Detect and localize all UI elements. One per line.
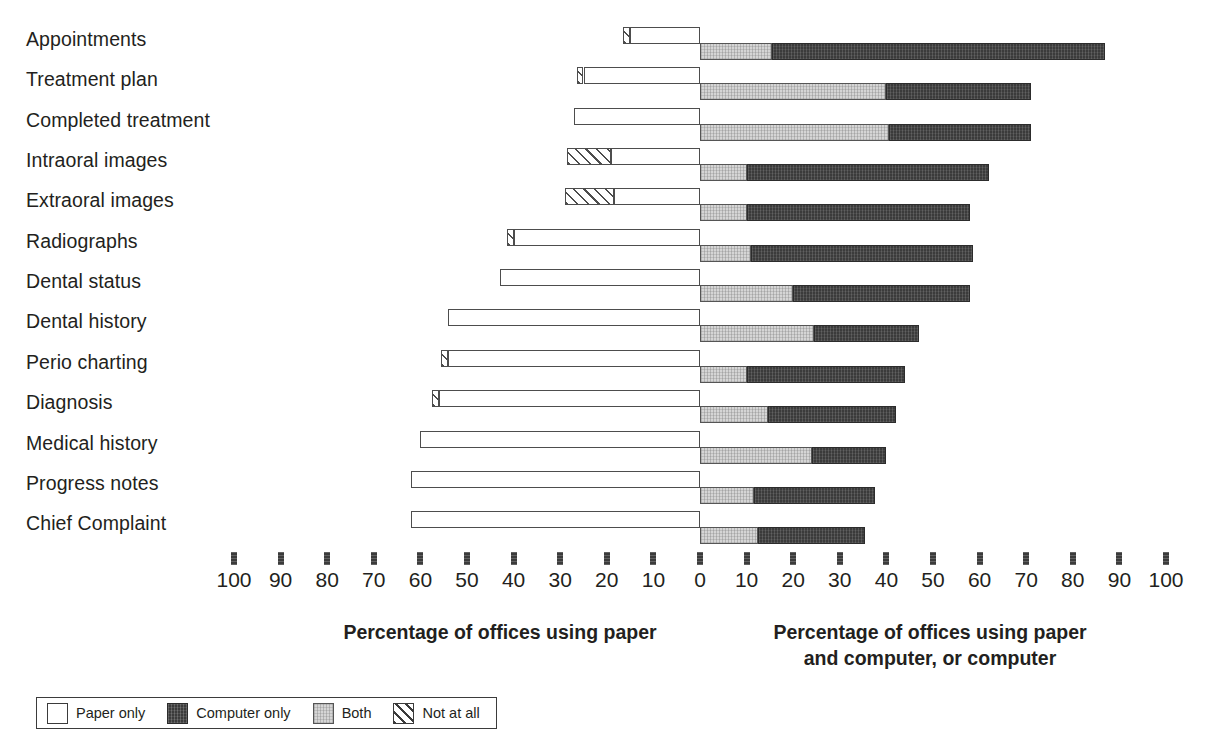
axis-tick-mark bbox=[231, 552, 237, 565]
bar-segment-paper-only bbox=[584, 67, 701, 84]
axis-tick-mark bbox=[697, 552, 703, 565]
axis-tick-label: 80 bbox=[1061, 569, 1084, 590]
bar-segment-both bbox=[700, 366, 747, 383]
bar-segment-both bbox=[700, 325, 814, 342]
legend-item-label: Not at all bbox=[422, 706, 479, 721]
bar-segment-both bbox=[700, 43, 772, 60]
bar-segment-not-at-all bbox=[623, 27, 630, 44]
legend-item: Computer only bbox=[167, 703, 290, 724]
bar-segment-both bbox=[700, 124, 889, 141]
bar-segment-both bbox=[700, 164, 747, 181]
bar-segment-computer-only bbox=[754, 487, 875, 504]
axis-tick-mark bbox=[1163, 552, 1169, 565]
legend-item: Paper only bbox=[47, 703, 145, 724]
axis-tick-label: 70 bbox=[1015, 569, 1038, 590]
bar-segment-paper-only bbox=[514, 229, 700, 246]
bar-segment-computer-only bbox=[793, 285, 970, 302]
axis-tick-mark bbox=[790, 552, 796, 565]
axis-tick-mark bbox=[744, 552, 750, 565]
bar-segment-both bbox=[700, 204, 747, 221]
bar-segment-computer-only bbox=[886, 83, 1030, 100]
axis-tick-mark bbox=[371, 552, 377, 565]
axis-tick-label: 100 bbox=[216, 569, 251, 590]
bar-segment-paper-only bbox=[448, 309, 700, 326]
bar-segment-paper-only bbox=[420, 431, 700, 448]
axis-tick-label: 50 bbox=[455, 569, 478, 590]
both-swatch-icon bbox=[313, 703, 334, 724]
bar-segment-both bbox=[700, 447, 812, 464]
axis-tick-label: 20 bbox=[782, 569, 805, 590]
axis-tick-mark bbox=[417, 552, 423, 565]
axis-tick-label: 10 bbox=[642, 569, 665, 590]
axis-tick-label: 90 bbox=[269, 569, 292, 590]
legend-item: Not at all bbox=[393, 703, 479, 724]
bar-segment-both bbox=[700, 487, 754, 504]
bar-segment-computer-only bbox=[812, 447, 887, 464]
axis-tick-mark bbox=[278, 552, 284, 565]
axis-tick-mark bbox=[650, 552, 656, 565]
axis-tick-mark bbox=[324, 552, 330, 565]
axis-title-right-line1: Percentage of offices using paper bbox=[745, 620, 1115, 646]
axis-tick-label: 40 bbox=[875, 569, 898, 590]
bar-segment-not-at-all bbox=[432, 390, 439, 407]
bar-segment-paper-only bbox=[411, 511, 700, 528]
legend-item-label: Both bbox=[342, 706, 372, 721]
axis-tick-label: 30 bbox=[549, 569, 572, 590]
axis-tick-mark bbox=[837, 552, 843, 565]
chart-legend: Paper onlyComputer onlyBothNot at all bbox=[36, 697, 497, 729]
axis-tick-label: 90 bbox=[1108, 569, 1131, 590]
computer-swatch-icon bbox=[167, 703, 188, 724]
axis-tick-label: 40 bbox=[502, 569, 525, 590]
axis-tick-mark bbox=[557, 552, 563, 565]
bar-segment-not-at-all bbox=[577, 67, 584, 84]
bar-segment-paper-only bbox=[411, 471, 700, 488]
bar-segment-paper-only bbox=[500, 269, 700, 286]
not-at-all-swatch-icon bbox=[393, 703, 414, 724]
bar-segment-both bbox=[700, 406, 768, 423]
bar-segment-computer-only bbox=[772, 43, 1105, 60]
axis-tick-label: 100 bbox=[1148, 569, 1183, 590]
axis-tick-label: 60 bbox=[968, 569, 991, 590]
bar-segment-both bbox=[700, 245, 751, 262]
bar-segment-paper-only bbox=[611, 148, 700, 165]
bar-segment-not-at-all bbox=[567, 148, 611, 165]
axis-tick-label: 10 bbox=[735, 569, 758, 590]
bar-segment-computer-only bbox=[751, 245, 972, 262]
legend-item-label: Computer only bbox=[196, 706, 290, 721]
bar-segment-paper-only bbox=[574, 108, 700, 125]
bar-segment-computer-only bbox=[747, 366, 905, 383]
axis-tick-label: 70 bbox=[362, 569, 385, 590]
bar-segment-both bbox=[700, 285, 793, 302]
bar-segment-computer-only bbox=[747, 204, 971, 221]
bar-segment-not-at-all bbox=[565, 188, 614, 205]
bar-segment-paper-only bbox=[614, 188, 700, 205]
axis-title-left: Percentage of offices using paper bbox=[300, 620, 700, 646]
axis-tick-mark bbox=[977, 552, 983, 565]
axis-tick-label: 50 bbox=[921, 569, 944, 590]
bar-segment-not-at-all bbox=[507, 229, 514, 246]
plot-area bbox=[0, 0, 1215, 546]
bar-segment-paper-only bbox=[630, 27, 700, 44]
diverging-bar-chart: AppointmentsTreatment planCompleted trea… bbox=[0, 0, 1215, 735]
axis-title-right-line2: and computer, or computer bbox=[745, 646, 1115, 672]
axis-tick-mark bbox=[883, 552, 889, 565]
bar-segment-both bbox=[700, 527, 758, 544]
axis-tick-mark bbox=[1070, 552, 1076, 565]
bar-segment-computer-only bbox=[814, 325, 919, 342]
axis-tick-mark bbox=[1023, 552, 1029, 565]
bar-segment-computer-only bbox=[758, 527, 865, 544]
axis-tick-mark bbox=[511, 552, 517, 565]
bar-segment-paper-only bbox=[448, 350, 700, 367]
bar-segment-paper-only bbox=[439, 390, 700, 407]
legend-item: Both bbox=[313, 703, 372, 724]
value-axis: 1009080706050403020100102030405060708090… bbox=[0, 552, 1215, 604]
axis-tick-label: 20 bbox=[595, 569, 618, 590]
bar-segment-computer-only bbox=[768, 406, 896, 423]
axis-tick-mark bbox=[1116, 552, 1122, 565]
bar-segment-computer-only bbox=[889, 124, 1031, 141]
axis-tick-mark bbox=[930, 552, 936, 565]
axis-tick-label: 30 bbox=[828, 569, 851, 590]
axis-tick-label: 80 bbox=[316, 569, 339, 590]
axis-title-right: Percentage of offices using paper and co… bbox=[745, 620, 1115, 671]
axis-tick-mark bbox=[464, 552, 470, 565]
